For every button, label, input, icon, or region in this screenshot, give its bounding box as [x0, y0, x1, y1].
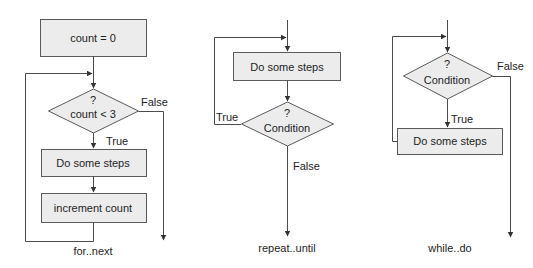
- true-label: True: [216, 111, 238, 123]
- true-label: True: [106, 135, 128, 147]
- false-label: False: [497, 60, 524, 72]
- for-next-caption: for..next: [73, 245, 112, 257]
- decision-condition-text: count < 3: [70, 108, 116, 120]
- true-label: True: [451, 113, 473, 125]
- increment-count-text: increment count: [54, 202, 132, 214]
- loop-flowcharts: count = 0 ? count < 3 False True Do some…: [0, 0, 533, 268]
- decision-question-mark: ?: [284, 107, 290, 119]
- decision-condition-text: Condition: [264, 122, 310, 134]
- init-count-text: count = 0: [70, 32, 116, 44]
- while-do-flowchart: ? Condition False True Do some steps whi…: [393, 20, 524, 254]
- decision-question-mark: ?: [90, 94, 96, 106]
- repeat-until-flowchart: Do some steps ? Condition True False rep…: [215, 20, 341, 254]
- false-exit-arrow: [493, 77, 511, 238]
- false-label: False: [293, 160, 320, 172]
- for-next-flowchart: count = 0 ? count < 3 False True Do some…: [26, 20, 168, 258]
- decision-question-mark: ?: [444, 58, 450, 70]
- body-steps-text: Do some steps: [56, 157, 130, 169]
- decision-condition-text: Condition: [424, 74, 470, 86]
- body-steps-text: Do some steps: [413, 135, 487, 147]
- false-label: False: [141, 96, 168, 108]
- repeat-until-caption: repeat..until: [258, 242, 315, 254]
- body-steps-text: Do some steps: [250, 61, 324, 73]
- while-do-caption: while..do: [427, 242, 471, 254]
